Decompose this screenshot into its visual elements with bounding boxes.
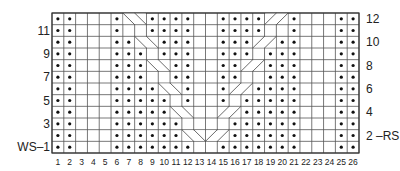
row-label-1: WS–1 [17, 141, 50, 153]
column-label-23: 23 [312, 157, 324, 167]
purl-dot [245, 99, 248, 102]
purl-dot [68, 41, 71, 44]
purl-dot [233, 52, 236, 55]
purl-dot [127, 111, 130, 114]
purl-dot [68, 134, 71, 137]
column-label-21: 21 [288, 157, 300, 167]
knitting-chart-grid [52, 13, 359, 153]
purl-dot [233, 146, 236, 149]
row-label-5: 5 [43, 95, 50, 107]
purl-dot [127, 146, 130, 149]
column-label-4: 4 [87, 157, 99, 167]
row-label-4: 4 [366, 106, 373, 118]
purl-dot [151, 17, 154, 20]
purl-dot [56, 76, 59, 79]
purl-dot [233, 29, 236, 32]
purl-dot [139, 64, 142, 67]
purl-dot [56, 134, 59, 137]
purl-dot [174, 29, 177, 32]
purl-dot [222, 99, 225, 102]
purl-dot [174, 64, 177, 67]
purl-dot [127, 99, 130, 102]
purl-dot [151, 87, 154, 90]
purl-dot [269, 111, 272, 114]
purl-dot [340, 41, 343, 44]
purl-dot [292, 111, 295, 114]
purl-dot [174, 41, 177, 44]
purl-dot [115, 41, 118, 44]
purl-dot [174, 52, 177, 55]
purl-dot [186, 29, 189, 32]
purl-dot [269, 52, 272, 55]
column-label-26: 26 [347, 157, 359, 167]
purl-dot [222, 52, 225, 55]
column-label-7: 7 [123, 157, 135, 167]
purl-dot [163, 122, 166, 125]
purl-dot [257, 87, 260, 90]
column-label-12: 12 [182, 157, 194, 167]
purl-dot [115, 134, 118, 137]
row-label-2: 2 –RS [366, 130, 399, 142]
purl-dot [174, 76, 177, 79]
row-label-12: 12 [366, 13, 379, 25]
purl-dot [151, 99, 154, 102]
purl-dot [233, 64, 236, 67]
purl-dot [127, 52, 130, 55]
purl-dot [68, 52, 71, 55]
purl-dot [351, 64, 354, 67]
purl-dot [257, 111, 260, 114]
purl-dot [68, 146, 71, 149]
purl-dot [139, 146, 142, 149]
column-label-15: 15 [217, 157, 229, 167]
purl-dot [351, 87, 354, 90]
purl-dot [163, 52, 166, 55]
purl-dot [233, 134, 236, 137]
column-label-22: 22 [300, 157, 312, 167]
purl-dot [139, 134, 142, 137]
purl-dot [340, 134, 343, 137]
purl-dot [151, 146, 154, 149]
column-label-5: 5 [99, 157, 111, 167]
purl-dot [269, 134, 272, 137]
purl-dot [292, 146, 295, 149]
purl-dot [56, 41, 59, 44]
purl-dot [139, 76, 142, 79]
purl-dot [351, 99, 354, 102]
purl-dot [56, 99, 59, 102]
purl-dot [269, 146, 272, 149]
purl-dot [163, 17, 166, 20]
purl-dot [340, 29, 343, 32]
purl-dot [245, 134, 248, 137]
purl-dot [68, 17, 71, 20]
purl-dot [245, 41, 248, 44]
purl-dot [233, 76, 236, 79]
purl-dot [127, 122, 130, 125]
column-label-18: 18 [253, 157, 265, 167]
purl-dot [163, 99, 166, 102]
purl-dot [257, 146, 260, 149]
purl-dot [222, 64, 225, 67]
purl-dot [151, 122, 154, 125]
column-label-1: 1 [52, 157, 64, 167]
purl-dot [245, 29, 248, 32]
purl-dot [269, 99, 272, 102]
column-label-8: 8 [135, 157, 147, 167]
purl-dot [151, 134, 154, 137]
purl-dot [163, 41, 166, 44]
purl-dot [269, 122, 272, 125]
purl-dot [292, 17, 295, 20]
purl-dot [139, 87, 142, 90]
purl-dot [186, 17, 189, 20]
purl-dot [163, 29, 166, 32]
grid-lines [52, 13, 359, 153]
column-label-3: 3 [76, 157, 88, 167]
column-label-14: 14 [205, 157, 217, 167]
chart-svg [52, 13, 359, 153]
purl-dot [269, 64, 272, 67]
purl-dot [222, 41, 225, 44]
purl-dot [340, 99, 343, 102]
purl-dot [351, 122, 354, 125]
purl-dot [351, 111, 354, 114]
purl-dot [174, 146, 177, 149]
column-label-11: 11 [170, 157, 182, 167]
